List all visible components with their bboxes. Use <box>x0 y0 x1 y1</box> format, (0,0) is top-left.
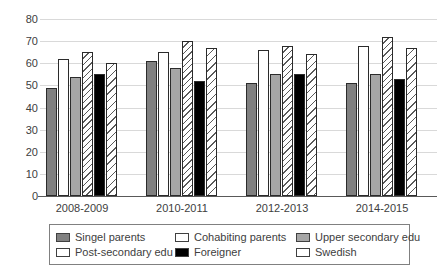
bar-upper-secondary-edu-2014-2015 <box>370 74 381 196</box>
y-axis-tick-label: 30 <box>8 124 38 137</box>
legend-label: Cohabiting parents <box>194 231 286 243</box>
bar-group-2014-2015 <box>346 37 418 196</box>
bar-cohabiting-parents-2014-2015 <box>358 46 369 196</box>
legend-item-cohabiting-parents: Cohabiting parents <box>175 231 296 243</box>
legend-item-foreigner: Foreigner <box>175 246 296 258</box>
y-axis-tick-label: 70 <box>8 35 38 48</box>
y-axis-tick-label: 20 <box>8 146 38 159</box>
bar-group-2012-2013 <box>246 46 318 196</box>
x-axis-category-label: 2010-2011 <box>137 202 227 214</box>
legend-swatch-icon <box>296 233 310 242</box>
bar-group-2008-2009 <box>46 52 118 196</box>
bar-cohabiting-parents-2008-2009 <box>58 59 69 196</box>
x-axis-category-label: 2014-2015 <box>337 202 427 214</box>
y-axis-tick-label: 80 <box>8 13 38 26</box>
bar-cohabiting-parents-2010-2011 <box>158 52 169 196</box>
bar-singel-parents-2008-2009 <box>46 88 57 196</box>
y-axis-tick-label: 40 <box>8 102 38 115</box>
legend-item-post-secondary-edu: Post-secondary edu <box>56 246 175 258</box>
bar-foreigner-2014-2015 <box>394 79 405 196</box>
bar-singel-parents-2014-2015 <box>346 83 357 196</box>
bar-swedish-2008-2009 <box>106 63 117 196</box>
legend-swatch-icon <box>296 248 310 257</box>
bar-foreigner-2010-2011 <box>194 81 205 196</box>
chart-legend: Singel parentsCohabiting parentsUpper se… <box>49 224 410 265</box>
bar-post-secondary-edu-2010-2011 <box>182 41 193 196</box>
grouped-bar-chart: 010203040506070802008-20092010-20112012-… <box>0 0 444 278</box>
legend-item-upper-secondary-edu: Upper secondary edu <box>296 231 420 243</box>
legend-label: Swedish <box>315 246 357 258</box>
bar-post-secondary-edu-2012-2013 <box>282 46 293 196</box>
bar-swedish-2010-2011 <box>206 48 217 196</box>
legend-swatch-icon <box>56 233 70 242</box>
legend-swatch-icon <box>175 233 189 242</box>
bar-upper-secondary-edu-2008-2009 <box>70 77 81 196</box>
legend-label: Foreigner <box>194 246 241 258</box>
legend-label: Upper secondary edu <box>315 231 420 243</box>
gridline-80 <box>40 19 437 20</box>
legend-label: Singel parents <box>75 231 145 243</box>
bar-singel-parents-2010-2011 <box>146 61 157 196</box>
legend-label: Post-secondary edu <box>75 246 173 258</box>
legend-swatch-icon <box>56 248 70 257</box>
bar-singel-parents-2012-2013 <box>246 83 257 196</box>
x-axis-category-label: 2008-2009 <box>37 202 127 214</box>
legend-swatch-icon <box>175 248 189 257</box>
bar-foreigner-2012-2013 <box>294 74 305 196</box>
x-axis-line <box>38 196 437 197</box>
bar-upper-secondary-edu-2010-2011 <box>170 68 181 196</box>
legend-item-singel-parents: Singel parents <box>56 231 175 243</box>
legend-item-swedish: Swedish <box>296 246 420 258</box>
y-axis-tick-label: 0 <box>8 190 38 203</box>
bar-swedish-2012-2013 <box>306 54 317 196</box>
x-axis-category-label: 2012-2013 <box>237 202 327 214</box>
bar-post-secondary-edu-2014-2015 <box>382 37 393 196</box>
y-axis-tick-label: 10 <box>8 168 38 181</box>
y-axis-tick-label: 50 <box>8 79 38 92</box>
bar-upper-secondary-edu-2012-2013 <box>270 74 281 196</box>
bar-group-2010-2011 <box>146 41 218 196</box>
bar-foreigner-2008-2009 <box>94 74 105 196</box>
y-axis-tick-label: 60 <box>8 57 38 70</box>
bar-swedish-2014-2015 <box>406 48 417 196</box>
bar-cohabiting-parents-2012-2013 <box>258 50 269 196</box>
bar-post-secondary-edu-2008-2009 <box>82 52 93 196</box>
